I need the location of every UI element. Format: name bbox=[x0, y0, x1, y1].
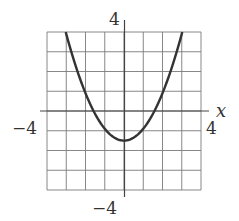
y-min-label: −4 bbox=[92, 198, 117, 218]
y-max-label: 4 bbox=[109, 9, 120, 29]
x-axis-name: x bbox=[216, 100, 226, 121]
x-min-label: −4 bbox=[12, 118, 37, 138]
function-graph: 4 −4 4 x −4 bbox=[0, 0, 239, 221]
x-max-label: 4 bbox=[206, 118, 217, 138]
